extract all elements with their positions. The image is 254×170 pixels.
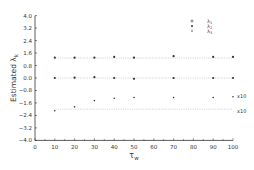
x-tick-label: 40 [111, 144, 118, 150]
data-point [232, 96, 234, 98]
data-point [74, 77, 76, 79]
data-point [173, 97, 175, 99]
data-point [232, 77, 234, 79]
x-tick-label: 70 [170, 144, 177, 150]
data-point [74, 106, 76, 108]
x-tick-label: 60 [150, 144, 157, 150]
data-point [113, 56, 115, 58]
scale-annotation-estimate: x10 [237, 93, 246, 99]
y-tick-label: −2.4 [19, 112, 33, 118]
x-tick-label: 80 [190, 144, 197, 150]
data-point [212, 77, 214, 79]
legend-item-lambda3: λ3 [191, 28, 212, 35]
x-tick-label: 20 [71, 144, 78, 150]
data-point [212, 97, 214, 99]
data-point [74, 57, 76, 59]
data-point [113, 77, 115, 79]
data-point [133, 97, 135, 99]
data-point [54, 77, 56, 79]
y-tick-label: −0.8 [19, 87, 33, 93]
y-tick-label: 0.0 [23, 75, 32, 81]
reference-lines [55, 58, 233, 109]
x-tick-label: 0 [33, 144, 37, 150]
data-point [212, 56, 214, 58]
y-tick-label: 0.8 [23, 63, 32, 69]
y-tick-label: 3.2 [23, 25, 32, 31]
y-tick-label: 4.0 [23, 13, 32, 19]
data-point [93, 57, 95, 59]
x-axis-label: τw [129, 151, 139, 161]
y-tick-label: 2.4 [23, 38, 32, 44]
y-tick-label: 1.6 [23, 50, 32, 56]
data-point [133, 57, 135, 59]
data-point [113, 97, 115, 99]
chart: 4.03.22.41.60.80.0−0.8−1.6−2.4−3.2−4.001… [0, 0, 254, 170]
x-tick-label: 90 [210, 144, 217, 150]
data-point [94, 100, 96, 102]
x-tick-label: 30 [91, 144, 98, 150]
data-point [133, 78, 135, 80]
data-point [232, 56, 234, 58]
x-tick-label: 50 [131, 144, 138, 150]
y-tick-label: −3.2 [19, 125, 32, 131]
axes: 4.03.22.41.60.80.0−0.8−1.6−2.4−3.2−4.001… [19, 13, 239, 151]
x-tick-label: 10 [51, 144, 58, 150]
y-tick-label: −1.6 [19, 100, 33, 106]
data-points [54, 55, 234, 111]
y-tick-label: −4.0 [19, 137, 33, 143]
y-axis-label: Estimated λk [9, 53, 19, 102]
data-point [54, 57, 56, 59]
data-point [93, 76, 95, 78]
x-tick-label: 100 [228, 144, 239, 150]
data-point [54, 110, 56, 112]
scale-annotation-reference: x10 [237, 108, 246, 114]
data-point [173, 55, 175, 57]
legend: λ1 λ2 λ3 [191, 18, 212, 35]
data-point [173, 77, 175, 79]
